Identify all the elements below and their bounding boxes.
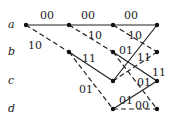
node-a3 bbox=[155, 23, 159, 27]
node-b2 bbox=[111, 50, 115, 54]
edge-label: 00 bbox=[81, 10, 95, 21]
edge-label: 01 bbox=[119, 95, 133, 106]
node-a1 bbox=[67, 23, 71, 27]
edge-label: 10 bbox=[28, 40, 42, 51]
edge-label: 00 bbox=[135, 100, 149, 111]
node-a2 bbox=[111, 23, 115, 27]
edge-label: 10 bbox=[128, 30, 142, 41]
node-a0 bbox=[24, 23, 28, 27]
edge-label: 01 bbox=[137, 77, 151, 88]
edge-label: 11 bbox=[137, 52, 151, 63]
node-d2 bbox=[111, 107, 115, 111]
node-b3 bbox=[155, 50, 159, 54]
edge-label: 00 bbox=[124, 10, 138, 21]
edge-label: 01 bbox=[119, 45, 133, 56]
edge-label: 11 bbox=[152, 67, 166, 78]
edge-label: 10 bbox=[88, 30, 102, 41]
edge-label: 00 bbox=[40, 10, 54, 21]
trellis-diagram: a b c d 0010001011010010110101010011 bbox=[0, 0, 174, 121]
node-c3 bbox=[155, 79, 159, 83]
node-d3 bbox=[155, 107, 159, 111]
edge-label: 11 bbox=[82, 53, 96, 64]
node-c2 bbox=[111, 79, 115, 83]
node-b1 bbox=[67, 50, 71, 54]
edge-label: 01 bbox=[79, 84, 93, 95]
